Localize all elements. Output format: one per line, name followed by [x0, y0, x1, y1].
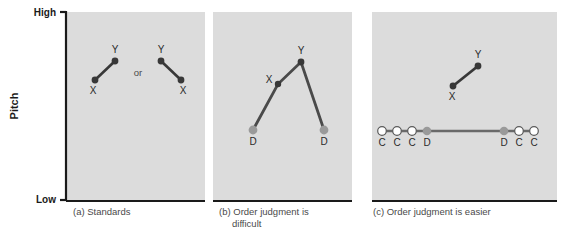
panel-backgrounds — [66, 12, 557, 200]
panel-a-label-y1: Y — [112, 44, 119, 55]
panel-a-caption-line1: (a) Standards — [73, 206, 131, 217]
panel-a-point-x1 — [92, 77, 99, 84]
panel-c-point-c5 — [530, 127, 539, 136]
y-axis: High Low Pitch — [8, 7, 66, 205]
y-axis-low-label: Low — [36, 194, 56, 205]
panel-c-label-c2: C — [393, 137, 400, 148]
panel-c-point-c1 — [378, 127, 387, 136]
panel-a-background — [66, 12, 205, 200]
panel-c-point-x — [450, 83, 457, 90]
panel-c-background — [372, 12, 557, 200]
pitch-order-judgment-figure: High Low Pitch X Y or Y X (a) Standards … — [0, 0, 569, 240]
panel-b-label-d1: D — [249, 136, 256, 147]
panel-a-point-y1 — [112, 58, 119, 65]
panel-c-label-c5: C — [530, 137, 537, 148]
panel-c-point-c2 — [393, 127, 402, 136]
panel-c-label-x: X — [449, 91, 456, 102]
panel-b-background — [213, 12, 352, 200]
panel-c-caption-line1: (c) Order judgment is easier — [373, 206, 491, 217]
panel-c-point-c3 — [408, 127, 417, 136]
panel-b-point-x — [275, 81, 281, 87]
panel-a-label-y2: Y — [158, 44, 165, 55]
panel-c-point-d1 — [423, 127, 432, 136]
panel-b-point-d1 — [249, 126, 258, 135]
panel-b-label-y: Y — [298, 45, 305, 56]
panel-a-point-y2 — [158, 58, 165, 65]
panel-a-point-x2 — [178, 77, 185, 84]
panel-b-caption-line2: difficult — [232, 218, 262, 229]
y-axis-title: Pitch — [8, 92, 20, 119]
panel-c-label-c1: C — [378, 137, 385, 148]
panel-c-point-y — [475, 63, 482, 70]
y-axis-high-label: High — [34, 7, 56, 18]
panel-b-caption-line1: (b) Order judgment is — [219, 206, 309, 217]
panel-c-point-d2 — [500, 127, 509, 136]
panel-b-label-d2: D — [320, 136, 327, 147]
panel-c-point-c4 — [515, 127, 524, 136]
panel-a-label-x1: X — [90, 85, 97, 96]
panel-c-label-d1: D — [423, 137, 430, 148]
panel-c-label-c4: C — [515, 137, 522, 148]
panel-a-or-text: or — [134, 67, 142, 78]
panel-c-label-d2: D — [500, 137, 507, 148]
panel-a-label-x2: X — [180, 85, 187, 96]
panel-c-label-y: Y — [475, 49, 482, 60]
panel-b-point-d2 — [320, 126, 329, 135]
panel-b-point-y — [298, 59, 305, 66]
panel-b-label-x: X — [266, 74, 273, 85]
panel-c-label-c3: C — [408, 137, 415, 148]
